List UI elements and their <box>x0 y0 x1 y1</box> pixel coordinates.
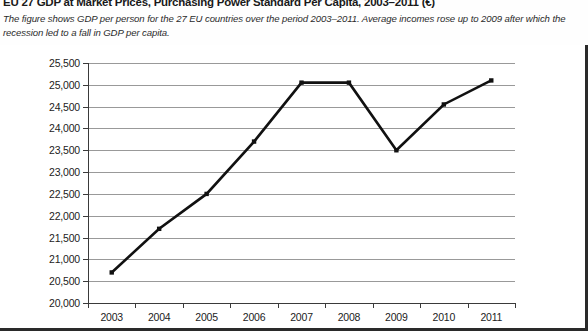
x-axis-tick-label: 2010 <box>433 311 456 323</box>
x-axis-tick-label: 2008 <box>338 311 361 323</box>
data-point-marker <box>252 139 256 143</box>
figure-caption: The figure shows GDP per person for the … <box>3 12 579 39</box>
y-axis-tick-label: 25,500 <box>49 57 80 69</box>
y-axis-tick-label: 25,000 <box>49 79 80 91</box>
x-axis-tick-label: 2003 <box>100 311 123 323</box>
y-axis-tick-label: 23,500 <box>49 144 80 156</box>
y-axis-tick-label: 24,000 <box>49 122 80 134</box>
y-axis-tick-label: 24,500 <box>49 101 80 113</box>
y-axis-tick-label: 20,500 <box>49 275 80 287</box>
page-title: EU 27 GDP at Market Prices, Purchasing P… <box>3 0 583 9</box>
plot-area: 20,00020,50021,00021,50022,00022,50023,0… <box>88 63 515 303</box>
chart-frame: 20,00020,50021,00021,50022,00022,50023,0… <box>0 45 588 331</box>
data-point-marker <box>347 80 351 84</box>
y-axis-tick-label: 23,000 <box>49 166 80 178</box>
line-series-gdp-per-capita <box>88 63 515 304</box>
y-axis-tick-label: 21,000 <box>49 253 80 265</box>
data-point-marker <box>489 78 493 82</box>
y-axis-tick-label: 20,000 <box>49 297 80 309</box>
x-axis-tick-label: 2011 <box>480 311 502 323</box>
x-axis-tick-label: 2007 <box>290 311 313 323</box>
x-axis-tick-mark <box>515 303 516 308</box>
data-point-marker <box>442 102 446 106</box>
data-point-marker <box>299 80 303 84</box>
x-axis-tick-label: 2009 <box>385 311 408 323</box>
y-axis-tick-label: 22,000 <box>49 210 80 222</box>
x-axis-tick-label: 2006 <box>243 311 266 323</box>
y-axis-tick-label: 22,500 <box>49 188 80 200</box>
data-point-marker <box>157 227 161 231</box>
figure-header: EU 27 GDP at Market Prices, Purchasing P… <box>3 0 583 39</box>
series-line <box>112 80 492 272</box>
data-point-marker <box>204 192 208 196</box>
data-point-marker <box>394 148 398 152</box>
x-axis-tick-label: 2004 <box>148 311 171 323</box>
data-point-marker <box>110 270 114 274</box>
x-axis-tick-label: 2005 <box>195 311 218 323</box>
y-axis-tick-label: 21,500 <box>49 232 80 244</box>
figure-page: EU 27 GDP at Market Prices, Purchasing P… <box>0 0 588 331</box>
